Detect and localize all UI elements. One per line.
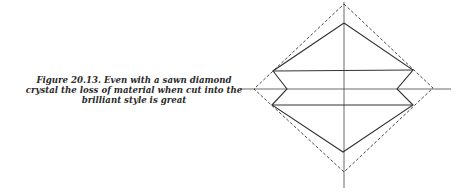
crown-girdle-line (273, 70, 413, 71)
sawn-crystal-outline (254, 4, 433, 172)
brilliant-cut-outline (272, 23, 413, 152)
diamond-diagram (0, 0, 473, 193)
